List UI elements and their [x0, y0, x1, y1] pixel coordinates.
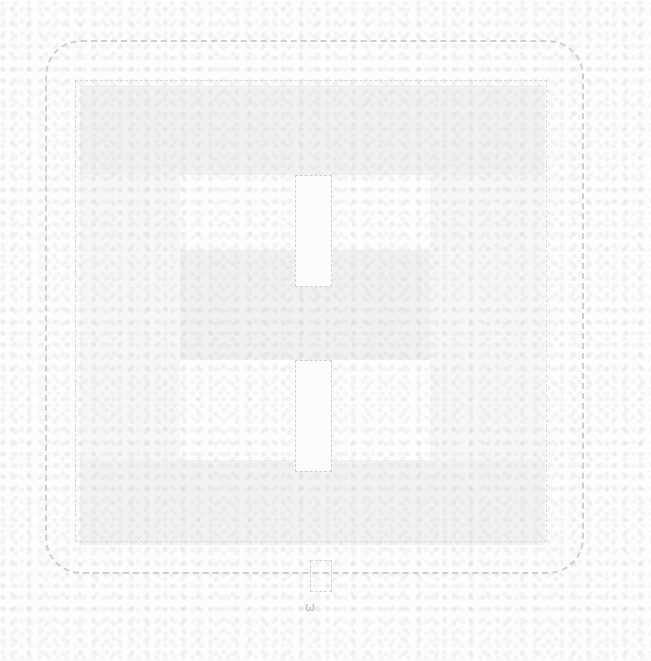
bottom-slot	[295, 360, 332, 472]
top-slot	[295, 175, 332, 287]
footer-mark: ω	[305, 600, 315, 614]
bottom-tab	[310, 560, 332, 592]
inner-frame	[75, 80, 547, 542]
